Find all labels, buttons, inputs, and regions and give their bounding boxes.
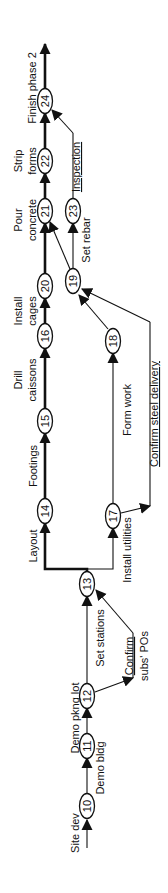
label-drill-caissons-line1: Drill [12,371,24,390]
svg-text:22: 22 [39,155,51,167]
svg-text:17: 17 [107,510,119,522]
node-14: 14 [38,499,53,524]
node-19: 19 [66,269,81,294]
svg-text:19: 19 [67,275,79,287]
node-16: 16 [38,324,53,349]
label-install-cages-line2: cages [26,296,38,326]
edge-19-21 [50,222,70,269]
node-12: 12 [80,684,95,709]
node-13: 13 [80,572,95,597]
node-22: 22 [38,149,53,174]
label-layout: Layout [27,529,39,562]
label-pour-concrete-line1: Pour [12,208,24,232]
svg-text:18: 18 [107,335,119,347]
label-demo-pkng-lot: Demo pkng lot [69,683,81,754]
edge-confirm-steel-delivery [82,289,150,513]
node-23: 23 [66,199,81,224]
svg-text:15: 15 [39,415,51,427]
node-24: 24 [38,89,53,114]
label-drill-caissons-line2: caissons [26,358,38,401]
label-install-cages-line1: Install [12,297,24,326]
node-15: 15 [38,409,53,434]
label-confirm-steel-delivery: Confirm steel delivery [148,361,160,467]
label-strip-forms-line1: Strip [12,150,24,173]
label-demo-bldg: Demo bldg [94,741,106,794]
label-finish-phase-2: Finish phase 2 [26,52,38,124]
label-form-work: Form work [121,384,133,436]
label-footings: Footings [27,444,39,487]
network-diagram: 10 11 12 13 14 15 16 17 18 19 20 21 [0,0,168,893]
svg-text:11: 11 [81,740,93,751]
node-10: 10 [80,794,95,819]
svg-text:21: 21 [39,205,51,217]
label-install-utilities: Install utilities [121,517,133,583]
node-20: 20 [38,274,53,299]
node-21: 21 [38,199,53,224]
svg-text:12: 12 [81,690,93,702]
node-11: 11 [80,734,95,759]
label-strip-forms-line2: forms [26,147,38,175]
label-set-rebar: Set rebar [80,217,92,263]
svg-text:20: 20 [39,280,51,292]
edge-layout [45,523,87,572]
svg-text:14: 14 [39,505,51,517]
svg-text:24: 24 [39,95,51,107]
label-pour-concrete-line2: concrete [26,199,38,241]
label-confirm-subs-pos-line1: Confirm [123,637,135,676]
label-confirm-subs-pos-line2: subs' POs [138,631,150,681]
node-18: 18 [106,329,121,354]
node-17: 17 [106,504,121,529]
svg-text:13: 13 [81,578,93,590]
svg-text:16: 16 [39,330,51,342]
svg-text:10: 10 [81,800,93,812]
svg-text:23: 23 [67,205,79,217]
label-inspection: Inspection [70,142,82,192]
label-site-dev: Site dev [69,813,81,853]
label-set-stations: Set stations [94,609,106,667]
edge-install-utilities [87,528,113,569]
